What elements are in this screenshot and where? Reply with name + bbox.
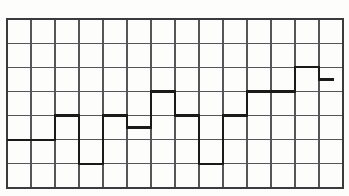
step-chart-figure bbox=[0, 0, 349, 196]
step-chart-canvas bbox=[0, 0, 349, 196]
